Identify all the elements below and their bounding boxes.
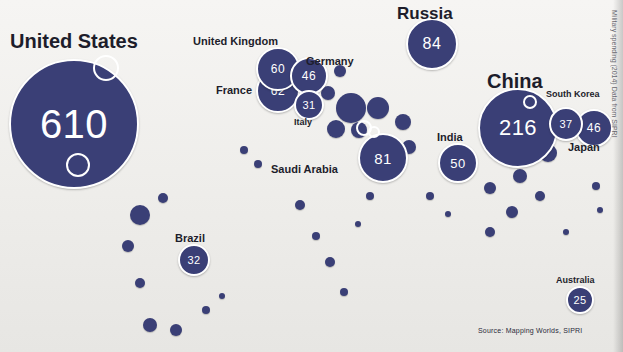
country-label: United States xyxy=(10,30,138,53)
map-bubble xyxy=(592,182,600,190)
map-bubble xyxy=(445,211,451,217)
bubble-value: 81 xyxy=(374,151,392,166)
country-bubble: 81 xyxy=(358,133,408,183)
bubble-hole xyxy=(93,55,119,81)
page-edge-shadow xyxy=(613,0,623,352)
map-bubble xyxy=(563,229,569,235)
bubble-value: 46 xyxy=(587,122,601,134)
map-bubble xyxy=(597,207,603,213)
country-label: India xyxy=(437,131,463,143)
map-bubble xyxy=(484,182,496,194)
bubble-value: 25 xyxy=(573,295,586,306)
map-bubble xyxy=(485,227,495,237)
bubble-map-figure: 6102168481626050464637323125 United Stat… xyxy=(0,0,623,352)
country-label: Germany xyxy=(306,55,354,67)
map-bubble xyxy=(170,324,182,336)
map-bubble xyxy=(395,114,411,130)
map-bubble xyxy=(355,221,361,227)
country-bubble: 84 xyxy=(406,18,458,70)
bubble-value: 32 xyxy=(187,255,200,266)
map-bubble xyxy=(254,160,262,168)
map-bubble xyxy=(219,293,225,299)
country-label: Japan xyxy=(568,141,600,153)
country-bubble: 31 xyxy=(294,90,324,120)
map-bubble xyxy=(130,205,150,225)
country-label: Saudi Arabia xyxy=(271,163,338,175)
map-bubble xyxy=(327,120,345,138)
map-bubble xyxy=(340,288,348,296)
map-bubble xyxy=(295,200,305,210)
map-bubble xyxy=(312,232,320,240)
country-bubble: 37 xyxy=(549,107,583,141)
map-bubble xyxy=(158,193,168,203)
bubble-value: 84 xyxy=(423,36,442,52)
source-note: Source: Mapping Worlds, SIPRI xyxy=(478,327,583,334)
bubble-hole xyxy=(66,153,90,177)
map-bubble xyxy=(202,306,210,314)
bubble-value: 31 xyxy=(302,100,315,111)
bubble-value: 60 xyxy=(271,63,285,75)
map-bubble xyxy=(426,192,434,200)
bubble-value: 610 xyxy=(40,104,108,144)
map-bubble xyxy=(240,146,248,154)
country-label: South Korea xyxy=(546,89,600,99)
map-bubble xyxy=(367,97,389,119)
map-bubble xyxy=(506,206,518,218)
map-bubble xyxy=(325,257,335,267)
country-label: Italy xyxy=(294,117,312,127)
bubble-value: 37 xyxy=(559,119,572,130)
country-label: China xyxy=(487,70,543,93)
country-bubble: 32 xyxy=(178,244,210,276)
map-bubble xyxy=(513,169,527,183)
country-label: United Kingdom xyxy=(193,35,278,47)
country-bubble: 25 xyxy=(566,286,594,314)
bubble-value: 216 xyxy=(499,117,537,139)
map-bubble xyxy=(122,240,134,252)
country-bubble: 50 xyxy=(438,143,478,183)
country-label: Russia xyxy=(397,4,453,24)
map-bubble xyxy=(535,191,545,201)
country-bubble: 216 xyxy=(478,88,558,168)
map-bubble xyxy=(366,192,374,200)
map-bubble xyxy=(143,318,157,332)
map-bubble xyxy=(336,93,366,123)
country-label: Brazil xyxy=(175,232,205,244)
bubble-hole xyxy=(368,126,380,138)
country-label: Australia xyxy=(556,275,595,285)
bubble-value: 50 xyxy=(450,157,465,170)
bubble-hole xyxy=(523,95,537,109)
bubble-value: 46 xyxy=(302,70,316,82)
country-label: France xyxy=(216,84,252,96)
map-bubble xyxy=(135,278,145,288)
